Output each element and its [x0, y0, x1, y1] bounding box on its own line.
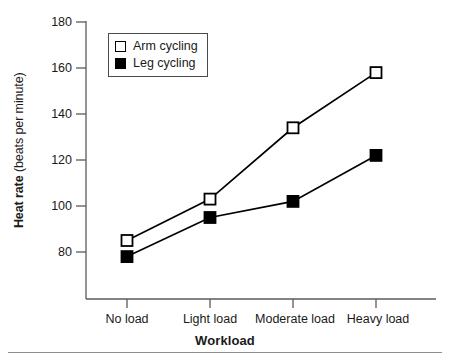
legend-label-arm-cycling: Arm cycling	[133, 40, 198, 53]
data-point-arm-cycling-heavy-load	[371, 67, 382, 78]
legend-label-leg-cycling: Leg cycling	[133, 57, 196, 70]
data-point-leg-cycling-heavy-load	[371, 150, 382, 161]
plot-area	[0, 0, 450, 360]
x-tick-label-moderate-load: Moderate load	[255, 313, 335, 326]
filled-square-icon	[115, 58, 126, 69]
series-line-arm-cycling	[127, 73, 376, 241]
chart-legend: Arm cycling Leg cycling	[108, 33, 208, 77]
x-tick-label-no-load: No load	[105, 313, 148, 326]
x-axis-title: Workload	[0, 333, 450, 348]
data-point-leg-cycling-light-load	[205, 212, 216, 223]
legend-item-arm-cycling: Arm cycling	[115, 38, 198, 55]
data-point-arm-cycling-no-load	[122, 235, 133, 246]
data-point-arm-cycling-moderate-load	[288, 122, 299, 133]
series-layer	[122, 67, 382, 262]
footer-divider	[8, 352, 442, 353]
data-point-arm-cycling-light-load	[205, 194, 216, 205]
open-square-icon	[115, 41, 126, 52]
data-point-leg-cycling-no-load	[122, 251, 133, 262]
chart-figure: Heat rate (beats per minute) 180 160 140…	[0, 0, 450, 360]
series-line-leg-cycling	[127, 155, 376, 256]
data-point-leg-cycling-moderate-load	[288, 196, 299, 207]
legend-item-leg-cycling: Leg cycling	[115, 55, 198, 72]
x-tick-label-heavy-load: Heavy load	[347, 313, 410, 326]
x-tick-label-light-load: Light load	[183, 313, 237, 326]
